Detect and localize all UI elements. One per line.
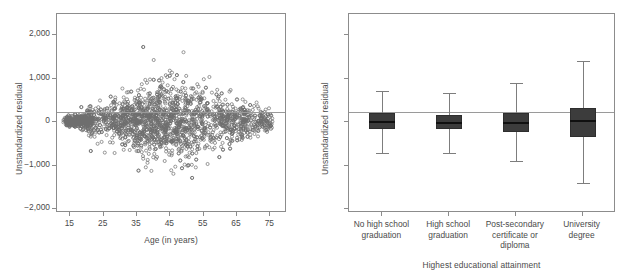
- boxplot-upper-whisker-cap: [577, 61, 590, 62]
- boxplot-y-tick-mark: [344, 78, 348, 79]
- boxplot-median-line: [369, 121, 395, 123]
- scatter-x-tick-label: 75: [249, 218, 289, 228]
- boxplot-lower-whisker: [449, 129, 450, 153]
- scatter-y-tick-mark: [52, 34, 56, 35]
- boxplot-lower-whisker-cap: [376, 153, 389, 154]
- scatter-plot-area: [56, 13, 286, 212]
- scatter-y-tick-mark: [52, 165, 56, 166]
- scatter-x-tick-mark: [136, 212, 137, 216]
- boxplot-x-tick-mark: [381, 212, 382, 216]
- boxplot-category-label-line: certificate or: [480, 230, 551, 241]
- boxplot-lower-whisker-cap: [577, 183, 590, 184]
- scatter-x-tick-mark: [203, 212, 204, 216]
- boxplot-category-label-line: Post-secondary: [480, 219, 551, 230]
- boxplot-y-tick-mark: [344, 165, 348, 166]
- boxplot-lower-whisker-cap: [510, 161, 523, 162]
- boxplot-upper-whisker: [516, 83, 517, 113]
- boxplot-y-tick-mark: [344, 34, 348, 35]
- boxplot-category-label: High schoolgraduation: [413, 219, 484, 240]
- boxplot-x-tick-mark: [448, 212, 449, 216]
- boxplot-category-label: Universitydegree: [546, 219, 617, 240]
- scatter-y-tick-mark: [52, 78, 56, 79]
- boxplot-y-tick-label: 1,000: [610, 72, 622, 82]
- scatter-x-tick-mark: [269, 212, 270, 216]
- scatter-y-axis-title: Unstandardized residual: [14, 82, 24, 175]
- scatter-x-tick-mark: [69, 212, 70, 216]
- scatter-x-tick-mark: [236, 212, 237, 216]
- boxplot-lower-whisker: [583, 137, 584, 182]
- boxplot-y-tick-label: 0: [610, 115, 622, 125]
- scatter-y-tick-mark: [52, 208, 56, 209]
- scatter-y-tick-label: 0: [6, 115, 50, 125]
- residual-figure: −2,000−1,00001,0002,000 15253545556575 U…: [0, 0, 622, 274]
- boxplot-category-label-line: University: [546, 219, 617, 230]
- boxplot-category-label-line: diploma: [480, 240, 551, 251]
- scatter-x-axis-title: Age (in years): [56, 235, 286, 245]
- boxplot-y-tick-label: −2,000: [610, 202, 622, 212]
- boxplot-y-tick-mark: [344, 208, 348, 209]
- boxplot-upper-whisker: [583, 61, 584, 108]
- boxplot-y-tick-label: −1,000: [610, 159, 622, 169]
- scatter-y-tick-label: −1,000: [6, 159, 50, 169]
- boxplot-category-label: Post-secondarycertificate ordiploma: [480, 219, 551, 251]
- boxplot-median-line: [570, 120, 596, 122]
- boxplot-lower-whisker: [382, 129, 383, 153]
- scatter-panel: −2,000−1,00001,0002,000 15253545556575 U…: [0, 0, 311, 274]
- boxplot-category-label-line: degree: [546, 230, 617, 241]
- boxplot-upper-whisker: [382, 91, 383, 113]
- scatter-y-tick-mark: [52, 121, 56, 122]
- boxplot-category-label-line: graduation: [413, 230, 484, 241]
- boxplot-category-label-line: No high school: [346, 219, 417, 230]
- boxplot-median-line: [503, 122, 529, 124]
- boxplot-category-label: No high schoolgraduation: [346, 219, 417, 240]
- scatter-y-tick-label: 1,000: [6, 72, 50, 82]
- boxplot-upper-whisker: [449, 93, 450, 116]
- boxplot-lower-whisker-cap: [443, 153, 456, 154]
- boxplot-category-label-line: High school: [413, 219, 484, 230]
- boxplot-panel: −2,000−1,00001,0002,000 No high schoolgr…: [311, 0, 622, 274]
- boxplot-upper-whisker-cap: [510, 83, 523, 84]
- boxplot-x-axis-title: Highest educational attainment: [348, 260, 615, 270]
- boxplot-iqr-box: [570, 108, 596, 138]
- boxplot-upper-whisker-cap: [376, 91, 389, 92]
- scatter-y-tick-label: 2,000: [6, 28, 50, 38]
- boxplot-x-tick-mark: [582, 212, 583, 216]
- boxplot-y-tick-mark: [344, 121, 348, 122]
- boxplot-y-axis-title: Unstandardized residual: [320, 82, 330, 175]
- boxplot-median-line: [436, 122, 462, 124]
- boxplot-lower-whisker: [516, 132, 517, 162]
- scatter-y-tick-label: −2,000: [6, 202, 50, 212]
- scatter-zero-reference-line: [57, 112, 285, 113]
- boxplot-y-tick-label: 2,000: [610, 28, 622, 38]
- boxplot-upper-whisker-cap: [443, 93, 456, 94]
- boxplot-category-label-line: graduation: [346, 230, 417, 241]
- scatter-x-tick-mark: [169, 212, 170, 216]
- boxplot-x-tick-mark: [515, 212, 516, 216]
- scatter-x-tick-mark: [103, 212, 104, 216]
- boxplot-plot-area: [348, 13, 615, 212]
